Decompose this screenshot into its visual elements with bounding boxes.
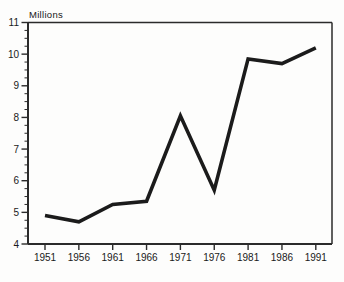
chart-canvas: 4567891011195119561961196619711976198119…: [0, 0, 344, 282]
x-tick-label: 1951: [34, 252, 57, 263]
x-tick-label: 1956: [68, 252, 91, 263]
data-line: [45, 48, 316, 222]
y-tick-label: 10: [8, 49, 20, 60]
y-tick-label: 5: [13, 207, 19, 218]
x-tick-label: 1976: [203, 252, 226, 263]
y-tick-label: 7: [13, 144, 19, 155]
x-tick-label: 1966: [135, 252, 158, 263]
y-tick-label: 6: [13, 175, 19, 186]
line-chart-figure: 4567891011195119561961196619711976198119…: [0, 0, 344, 282]
y-tick-label: 4: [13, 239, 19, 250]
y-axis-unit-label: Millions: [29, 9, 63, 20]
x-tick-label: 1961: [102, 252, 125, 263]
x-tick-label: 1986: [271, 252, 294, 263]
y-tick-label: 9: [13, 80, 19, 91]
x-tick-label: 1991: [305, 252, 328, 263]
data-series-layer: [45, 48, 316, 222]
x-tick-label: 1971: [169, 252, 192, 263]
y-tick-label: 8: [13, 112, 19, 123]
y-tick-label: 11: [9, 17, 20, 28]
x-tick-label: 1981: [237, 252, 260, 263]
